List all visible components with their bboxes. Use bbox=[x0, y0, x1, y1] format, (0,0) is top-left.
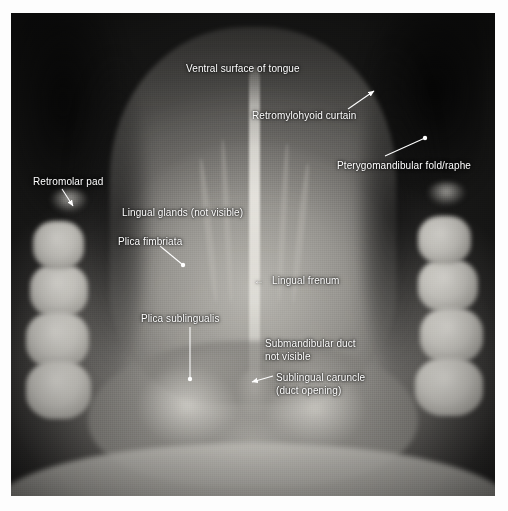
anatomical-photograph bbox=[11, 13, 495, 496]
vignette bbox=[11, 13, 495, 496]
figure-stage: Ventral surface of tongueRetromylohyoid … bbox=[0, 0, 508, 511]
